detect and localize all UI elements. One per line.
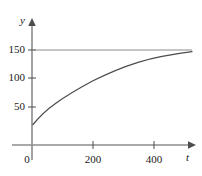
y-tick-label-150: 150 bbox=[0, 44, 25, 55]
y-axis-label: y bbox=[20, 15, 25, 26]
t-axis-arrow-icon bbox=[188, 141, 196, 149]
y-axis-arrow-icon bbox=[28, 18, 36, 26]
x-tick-label-0: 0 bbox=[20, 154, 34, 165]
solution-curve bbox=[33, 52, 192, 125]
x-axis-label: t bbox=[186, 152, 189, 163]
chart-figure: y t 150 100 50 0 200 400 bbox=[0, 0, 202, 176]
x-tick-label-200: 200 bbox=[78, 154, 108, 165]
plot-canvas bbox=[0, 0, 202, 176]
y-tick-label-50: 50 bbox=[0, 101, 25, 112]
x-tick-label-400: 400 bbox=[139, 154, 169, 165]
y-tick-label-100: 100 bbox=[0, 72, 25, 83]
